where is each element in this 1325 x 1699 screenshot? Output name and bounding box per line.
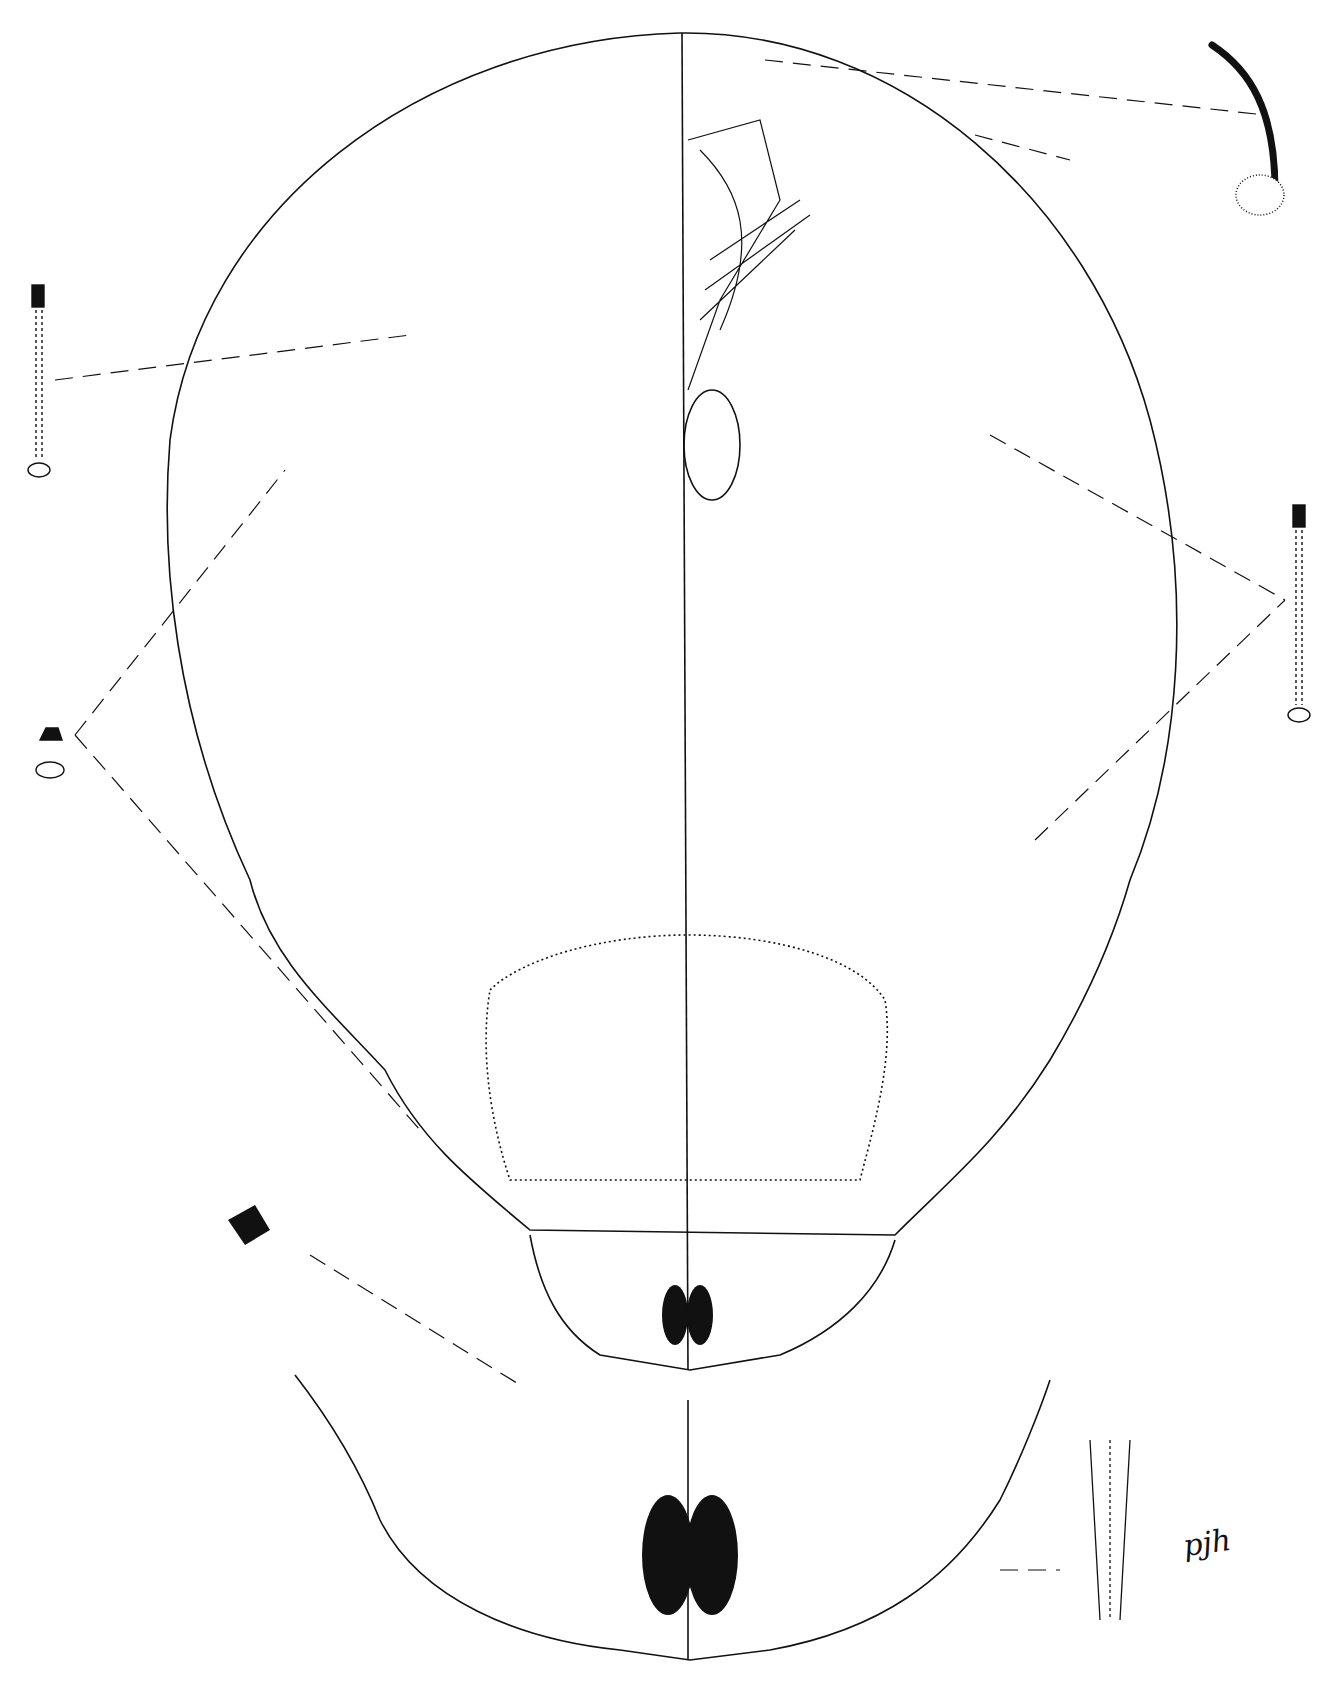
fringe-projection-detail-icon: [1090, 1440, 1130, 1620]
body-outline: [167, 33, 1177, 1235]
tubular-duct-detail-right-icon: [1288, 505, 1310, 722]
tubular-duct-detail-icon: [28, 285, 50, 477]
coxa-structure: [684, 390, 740, 500]
anal-plates-icon: [642, 1285, 738, 1615]
dorsal-seta-detail-icon: [1212, 45, 1284, 215]
pore-detail-icon: [36, 728, 64, 778]
pygidium-margin-upper: [530, 1235, 895, 1370]
mouthparts: [688, 120, 810, 390]
artist-signature: pjh: [1181, 1522, 1233, 1563]
leader-lines: [55, 60, 1285, 1570]
marginal-duct-detail-icon: [228, 1205, 270, 1245]
insect-illustration: [0, 0, 1325, 1699]
body-midline: [682, 33, 688, 1370]
